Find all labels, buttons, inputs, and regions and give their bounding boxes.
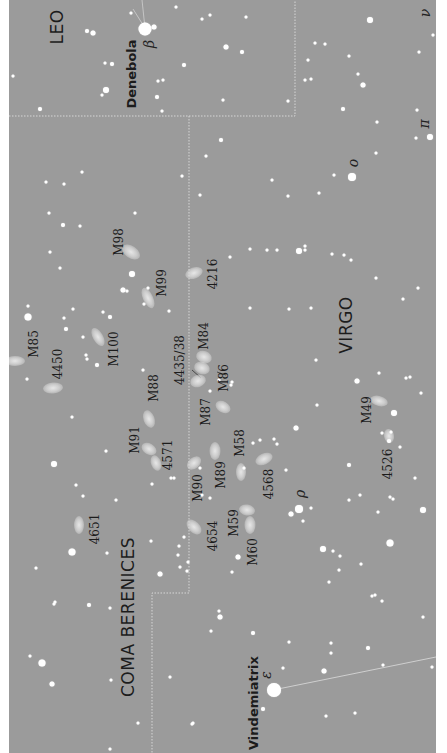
star bbox=[249, 307, 252, 310]
star bbox=[432, 34, 435, 37]
star bbox=[108, 315, 112, 319]
object-label: 4526 bbox=[381, 449, 395, 480]
star bbox=[355, 379, 360, 384]
star bbox=[12, 75, 15, 78]
star bbox=[390, 431, 393, 434]
star bbox=[245, 16, 248, 19]
star bbox=[179, 566, 182, 569]
star bbox=[191, 723, 194, 726]
object-label: M87 bbox=[199, 398, 213, 426]
star bbox=[175, 6, 178, 9]
star bbox=[75, 484, 78, 487]
star bbox=[49, 251, 52, 254]
star bbox=[50, 682, 55, 687]
object-label: 4435/38 bbox=[173, 335, 187, 385]
object-label: M49 bbox=[360, 396, 374, 424]
star bbox=[304, 245, 307, 248]
star bbox=[387, 540, 394, 547]
star bbox=[38, 107, 42, 111]
star bbox=[276, 249, 279, 252]
star bbox=[328, 581, 331, 584]
star bbox=[333, 174, 336, 177]
star bbox=[322, 669, 327, 674]
star bbox=[209, 14, 212, 17]
star bbox=[85, 29, 89, 33]
star bbox=[151, 483, 154, 486]
star-label-denebola: Denebola bbox=[124, 39, 139, 108]
object-label: 4568 bbox=[262, 469, 276, 500]
star bbox=[416, 109, 419, 112]
star bbox=[201, 18, 204, 21]
star bbox=[360, 563, 363, 566]
star bbox=[409, 376, 412, 379]
star bbox=[387, 439, 391, 443]
star bbox=[126, 290, 129, 293]
star bbox=[205, 155, 208, 158]
star bbox=[115, 499, 118, 502]
star bbox=[361, 83, 366, 88]
star-chart: LEO VIRGO COMA BERENICES Denebola β Vind… bbox=[9, 0, 436, 753]
star bbox=[209, 390, 212, 393]
star bbox=[315, 359, 318, 362]
star bbox=[420, 392, 423, 395]
star bbox=[101, 94, 104, 97]
star bbox=[129, 271, 135, 277]
star bbox=[314, 42, 317, 45]
star bbox=[139, 23, 152, 36]
star bbox=[39, 660, 46, 667]
greek-label-omicron: ο bbox=[345, 159, 361, 167]
star bbox=[266, 249, 269, 252]
star bbox=[343, 254, 346, 257]
star bbox=[357, 73, 360, 76]
object-label: M99 bbox=[155, 269, 169, 297]
object-label: M84 bbox=[197, 322, 211, 350]
constellation-label-coma-berenices: COMA BERENICES bbox=[118, 537, 138, 697]
star bbox=[168, 310, 171, 313]
star bbox=[181, 175, 184, 178]
object-label: 4216 bbox=[206, 259, 220, 290]
star bbox=[392, 498, 395, 501]
star bbox=[420, 507, 426, 513]
star bbox=[304, 249, 307, 252]
greek-label-nu: ν bbox=[417, 9, 433, 18]
star bbox=[186, 570, 189, 573]
star bbox=[79, 225, 82, 228]
star bbox=[350, 259, 353, 262]
constellation-label-leo: LEO bbox=[47, 9, 67, 44]
star bbox=[187, 561, 190, 564]
star bbox=[87, 603, 91, 607]
star bbox=[418, 51, 421, 54]
constellation-label-virgo: VIRGO bbox=[336, 296, 356, 354]
figure-line-virgo bbox=[273, 657, 436, 690]
star bbox=[199, 194, 202, 197]
star bbox=[130, 12, 133, 15]
star bbox=[261, 707, 265, 711]
star bbox=[134, 212, 137, 215]
star bbox=[25, 314, 32, 321]
star bbox=[307, 59, 310, 62]
object-label: 4571 bbox=[161, 440, 175, 471]
star bbox=[288, 308, 291, 311]
star bbox=[104, 62, 107, 65]
star bbox=[218, 610, 221, 613]
star bbox=[348, 55, 351, 58]
star bbox=[143, 303, 146, 306]
star bbox=[347, 463, 351, 467]
star bbox=[431, 666, 434, 669]
star bbox=[267, 683, 281, 697]
star bbox=[374, 594, 377, 597]
star bbox=[173, 477, 176, 480]
object-label: M98 bbox=[112, 228, 126, 256]
star bbox=[330, 642, 333, 645]
star bbox=[63, 317, 66, 320]
star bbox=[359, 494, 362, 497]
star bbox=[222, 99, 225, 102]
star bbox=[137, 722, 140, 725]
star bbox=[82, 336, 85, 339]
star bbox=[109, 607, 112, 610]
galaxy-ellipse bbox=[245, 516, 256, 534]
star bbox=[152, 25, 157, 30]
star-label-vindemiatrix: Vindemiatrix bbox=[246, 656, 261, 750]
star bbox=[339, 555, 342, 558]
star bbox=[86, 358, 89, 361]
